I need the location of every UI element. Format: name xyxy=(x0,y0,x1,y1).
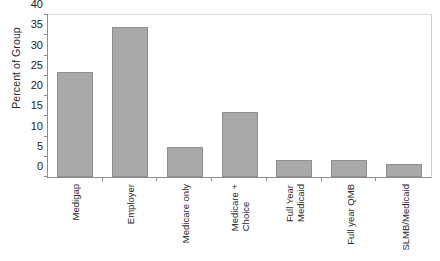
bar xyxy=(276,160,312,177)
x-tick-mark xyxy=(102,177,103,181)
x-label-slot: Full year QMB xyxy=(322,184,377,261)
y-tick-label: 10 xyxy=(31,120,43,131)
x-tick-label: SLMB/Medicaid xyxy=(399,184,410,251)
bar xyxy=(57,72,93,177)
x-tick-label-line: Full year QMB xyxy=(344,184,355,245)
bar-slot xyxy=(322,15,377,177)
y-tick-label: 15 xyxy=(31,100,43,111)
x-tick-label-line: SLMB/Medicaid xyxy=(399,184,410,251)
x-label-slot: Full YearMedicaid xyxy=(267,184,322,261)
y-tick-label: 35 xyxy=(31,19,43,30)
bar-slot xyxy=(267,15,322,177)
x-tick-label-line: Employer xyxy=(124,184,135,224)
bar-slot xyxy=(376,15,431,177)
x-tick-mark xyxy=(375,177,376,181)
bar-slot xyxy=(212,15,267,177)
x-label-slot: SLMB/Medicaid xyxy=(377,184,432,261)
x-tick-label-line: Choice xyxy=(240,184,251,231)
bar-slot xyxy=(48,15,103,177)
x-label-slot: Medicare only xyxy=(157,184,212,261)
x-tick-mark xyxy=(156,177,157,181)
y-tick-label: 25 xyxy=(31,59,43,70)
x-tick-label-line: Medigap xyxy=(69,184,80,220)
bar-slot xyxy=(103,15,158,177)
x-tick-label-line: Medicare + xyxy=(229,184,240,231)
x-tick-mark xyxy=(266,177,267,181)
y-axis-title: Percent of Group xyxy=(10,0,22,138)
x-axis-labels: MedigapEmployerMedicare onlyMedicare +Ch… xyxy=(47,184,432,261)
bar xyxy=(112,27,148,177)
x-tick-label-line: Medicaid xyxy=(295,184,306,222)
y-tick-label: 5 xyxy=(37,140,43,151)
y-tick-label: 20 xyxy=(31,80,43,91)
bar xyxy=(386,164,422,177)
x-tick-mark xyxy=(211,177,212,181)
plot-area: 0510152025303540 xyxy=(47,14,432,178)
bar-slot xyxy=(157,15,212,177)
y-tick-label: 0 xyxy=(37,161,43,172)
x-label-slot: Medigap xyxy=(47,184,102,261)
x-tick-label-line: Full Year xyxy=(284,185,295,222)
x-label-slot: Employer xyxy=(102,184,157,261)
x-tick-label: Medicare +Choice xyxy=(229,184,251,231)
x-tick-mark xyxy=(321,177,322,181)
bar-chart: Percent of Group 0510152025303540 Mediga… xyxy=(0,0,440,261)
bar xyxy=(167,147,203,177)
x-tick-label: Medicare only xyxy=(179,184,190,243)
x-tick-label: Medigap xyxy=(69,184,80,220)
y-tick-label: 40 xyxy=(31,0,43,10)
x-tick-label: Employer xyxy=(124,184,135,224)
bar xyxy=(222,112,258,177)
bar-series xyxy=(48,15,431,177)
x-tick-label: Full year QMB xyxy=(344,184,355,245)
x-label-slot: Medicare +Choice xyxy=(212,184,267,261)
y-tick-label: 30 xyxy=(31,39,43,50)
x-tick-label: Full YearMedicaid xyxy=(284,184,306,222)
bar xyxy=(331,160,367,177)
x-tick-label-line: Medicare only xyxy=(179,184,190,243)
